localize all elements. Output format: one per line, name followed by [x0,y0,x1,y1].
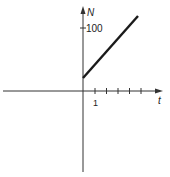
y-axis-arrow-icon [81,6,86,14]
y-axis-label: N [87,7,95,18]
x-tick-label: 1 [93,98,98,108]
x-axis-arrow-icon [155,89,163,94]
chart: N 100 1 t [0,0,170,177]
y-tick-label: 100 [86,23,103,34]
x-axis-label: t [158,95,162,106]
